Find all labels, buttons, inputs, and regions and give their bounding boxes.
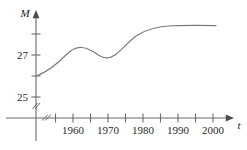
median-age-curve [36, 25, 216, 76]
median-age-line-chart: M t 27 25 1960 1970 1980 1990 2000 [0, 0, 247, 150]
x-tick-label-1980: 1980 [132, 124, 155, 136]
x-axis-group [6, 114, 234, 123]
y-axis-label: M [19, 7, 30, 19]
x-tick-label-1960: 1960 [62, 124, 85, 136]
y-tick-label-25: 25 [17, 91, 29, 103]
x-tick-label-1990: 1990 [167, 124, 190, 136]
x-tick-label-2000: 2000 [202, 124, 225, 136]
x-axis-arrowhead [226, 115, 234, 122]
y-tick-label-27: 27 [17, 49, 29, 61]
x-axis-label: t [237, 119, 241, 131]
figure-container: M t 27 25 1960 1970 1980 1990 2000 [0, 0, 247, 150]
x-tick-label-1970: 1970 [97, 124, 120, 136]
y-axis-arrowhead [33, 10, 40, 18]
